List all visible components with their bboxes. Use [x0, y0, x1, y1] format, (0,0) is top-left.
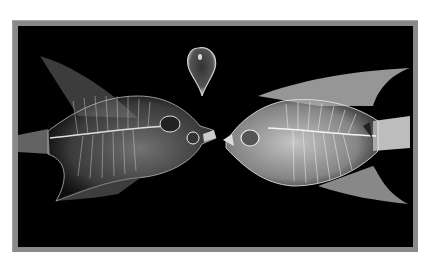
picture-frame	[12, 20, 418, 252]
left-fish-xray	[18, 56, 216, 201]
xray-illustration	[18, 26, 413, 247]
right-fish-xray	[223, 68, 410, 204]
bubble-xray	[188, 48, 216, 96]
xray-photo	[18, 26, 413, 247]
